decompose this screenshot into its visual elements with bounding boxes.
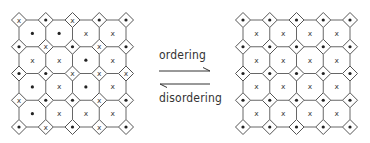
diamond-site [65, 120, 80, 135]
diamond-site: x [12, 13, 27, 28]
x-atom-icon: x [308, 29, 313, 38]
diamond-site [38, 93, 53, 108]
svg-text:x: x [281, 109, 286, 118]
diamond-site [119, 93, 134, 108]
x-atom-icon: x [308, 82, 313, 91]
svg-text:x: x [97, 69, 102, 78]
diamond-site [38, 66, 53, 81]
x-atom-icon: x [17, 16, 22, 25]
dot-atom-icon [348, 72, 351, 75]
svg-text:x: x [334, 56, 339, 65]
diamond-site [119, 13, 134, 28]
diamond-site [316, 93, 331, 108]
diamond-site [289, 66, 304, 81]
dot-atom-icon [295, 72, 298, 75]
order-disorder-diagram: xxxxxxxxxxxxxxxxxxxxx xxxxxxxxxxxxxxxx [0, 0, 370, 143]
dot-atom-icon [241, 125, 244, 128]
svg-text:x: x [84, 29, 89, 38]
svg-text:x: x [110, 56, 115, 65]
diamond-site [316, 66, 331, 81]
svg-text:x: x [334, 82, 339, 91]
x-atom-icon: x [70, 16, 75, 25]
dot-atom-icon [295, 18, 298, 21]
diamond-site [343, 13, 358, 28]
disordering-label: disordering [159, 92, 222, 104]
svg-text:x: x [70, 69, 75, 78]
dot-atom-icon [44, 99, 47, 102]
dot-atom-icon [71, 99, 74, 102]
diamond-site [12, 66, 27, 81]
x-atom-icon: x [334, 82, 339, 91]
disordered-lattice: xxxxxxxxxxxxxxxxxxxxx [12, 13, 134, 135]
svg-text:x: x [44, 123, 49, 132]
diamond-site [236, 66, 251, 81]
dot-atom-icon [31, 112, 34, 115]
harpoon-right-icon [159, 68, 210, 72]
svg-text:x: x [97, 42, 102, 51]
dot-atom-icon [295, 99, 298, 102]
x-atom-icon: x [57, 82, 62, 91]
dot-atom-icon [268, 45, 271, 48]
diamond-site: x [12, 93, 27, 108]
svg-text:x: x [254, 56, 259, 65]
svg-text:x: x [308, 29, 313, 38]
dot-atom-icon [44, 72, 47, 75]
diamond-site [289, 39, 304, 54]
diamond-site [343, 39, 358, 54]
svg-text:x: x [281, 29, 286, 38]
dot-atom-icon [241, 99, 244, 102]
svg-text:x: x [254, 29, 259, 38]
diamond-site: x [92, 39, 107, 54]
diamond-site: x [38, 120, 53, 135]
svg-text:x: x [110, 82, 115, 91]
svg-text:x: x [97, 96, 102, 105]
svg-text:x: x [281, 56, 286, 65]
x-atom-icon: x [254, 109, 259, 118]
dot-atom-icon [348, 45, 351, 48]
x-atom-icon: x [308, 109, 313, 118]
x-atom-icon: x [308, 56, 313, 65]
x-atom-icon: x [334, 109, 339, 118]
diamond-site [343, 120, 358, 135]
diamond-site [119, 120, 134, 135]
svg-text:x: x [254, 109, 259, 118]
dot-atom-icon [71, 125, 74, 128]
dot-atom-icon [44, 18, 47, 21]
diamond-site [262, 39, 277, 54]
x-atom-icon: x [84, 29, 89, 38]
svg-text:x: x [57, 82, 62, 91]
dot-atom-icon [268, 125, 271, 128]
svg-text:x: x [308, 82, 313, 91]
svg-text:x: x [308, 56, 313, 65]
diamond-site [289, 13, 304, 28]
x-atom-icon: x [17, 96, 22, 105]
diamond-site: x [38, 39, 53, 54]
diamond-site [289, 120, 304, 135]
x-atom-icon: x [281, 109, 286, 118]
dot-atom-icon [98, 18, 101, 21]
dot-atom-icon [124, 99, 127, 102]
diamond-site [343, 66, 358, 81]
dot-atom-icon [322, 45, 325, 48]
svg-text:x: x [57, 56, 62, 65]
svg-text:x: x [334, 29, 339, 38]
svg-text:x: x [308, 109, 313, 118]
dot-atom-icon [348, 125, 351, 128]
diamond-site: x [65, 66, 80, 81]
dot-atom-icon [31, 85, 34, 88]
diamond-site [65, 39, 80, 54]
dot-atom-icon [84, 85, 87, 88]
dot-atom-icon [348, 99, 351, 102]
x-atom-icon: x [281, 56, 286, 65]
diamond-site [12, 120, 27, 135]
x-atom-icon: x [124, 69, 129, 78]
svg-text:x: x [97, 123, 102, 132]
dot-atom-icon [268, 18, 271, 21]
svg-text:x: x [17, 96, 22, 105]
x-atom-icon: x [30, 56, 35, 65]
diamond-site [38, 13, 53, 28]
x-atom-icon: x [110, 29, 115, 38]
diamond-site [316, 120, 331, 135]
dot-atom-icon [84, 59, 87, 62]
svg-text:x: x [334, 109, 339, 118]
